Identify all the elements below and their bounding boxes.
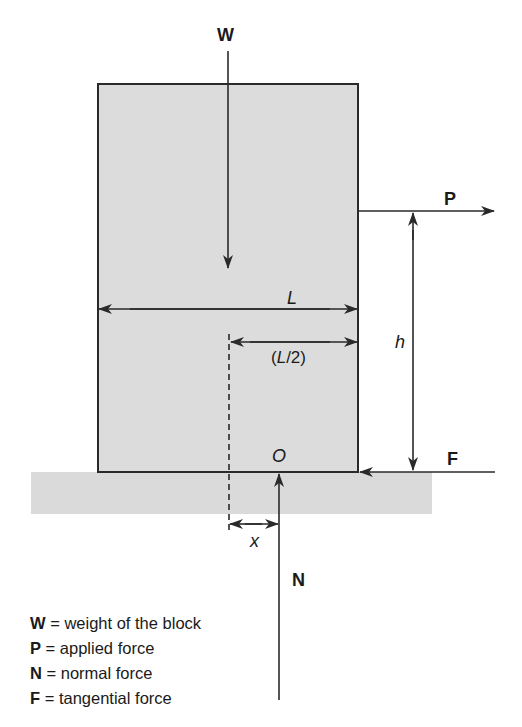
- legend-item-tangential: F = tangential force: [30, 686, 201, 711]
- weight-label: W: [217, 26, 234, 44]
- half-length-label: (L/2): [271, 349, 306, 366]
- applied-force-label: P: [444, 190, 456, 208]
- offset-label: x: [250, 532, 259, 550]
- legend-item-applied: P = applied force: [30, 636, 201, 661]
- legend-item-weight: W = weight of the block: [30, 611, 201, 636]
- tangential-force-label: F: [447, 450, 458, 468]
- normal-force-label: N: [292, 571, 305, 589]
- legend: W = weight of the block P = applied forc…: [30, 611, 201, 711]
- legend-item-normal: N = normal force: [30, 661, 201, 686]
- ground-surface: [31, 472, 432, 514]
- origin-label: O: [272, 447, 286, 465]
- length-label: L: [287, 289, 297, 307]
- height-label: h: [395, 333, 405, 351]
